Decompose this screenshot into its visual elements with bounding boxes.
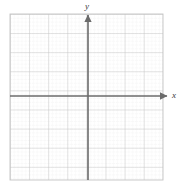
coordinate-grid	[0, 0, 182, 188]
coordinate-plane-figure: y x	[0, 0, 182, 188]
x-axis-label: x	[172, 91, 176, 100]
y-axis-label: y	[85, 2, 89, 11]
grid-major-lines	[10, 14, 163, 180]
